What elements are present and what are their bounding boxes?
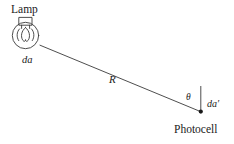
photocell-vertex-dot xyxy=(199,110,203,114)
ray-line xyxy=(40,45,201,111)
photocell-label: Photocell xyxy=(174,124,217,136)
receiver-area-label: da′ xyxy=(207,99,219,109)
bulb-glass-icon xyxy=(12,22,38,48)
bulb-filament-icon xyxy=(22,28,30,42)
radiometry-diagram: Lamp da R θ da′ Photocell xyxy=(0,0,234,144)
lamp-label: Lamp xyxy=(11,4,38,16)
angle-label: θ xyxy=(186,93,191,103)
source-area-label: da xyxy=(22,55,33,66)
distance-label: R xyxy=(109,74,116,85)
bulb-cap-icon xyxy=(19,17,32,25)
bulb-inner-arc-icon xyxy=(17,29,34,41)
